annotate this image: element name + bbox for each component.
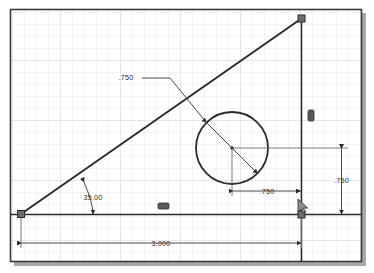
point-top-right[interactable]: [298, 15, 305, 22]
grid-layer: [11, 10, 361, 261]
diameter-dimension-text[interactable]: .750: [119, 73, 134, 82]
overall-width-dimension-text[interactable]: 3.000: [152, 239, 171, 248]
sketch-svg[interactable]: .750 35.00 .750 .750 3.000: [0, 0, 374, 273]
horizontal-constraint-icon[interactable]: [158, 203, 169, 209]
angle-dimension-text[interactable]: 35.00: [84, 193, 103, 202]
vertical-constraint-icon[interactable]: [308, 110, 314, 121]
point-bottom-left[interactable]: [18, 211, 25, 218]
vertical-offset-dimension-text[interactable]: .750: [334, 176, 349, 185]
horizontal-offset-dimension-text[interactable]: .750: [260, 187, 275, 196]
drawing-canvas[interactable]: .750 35.00 .750 .750 3.000: [0, 0, 374, 273]
